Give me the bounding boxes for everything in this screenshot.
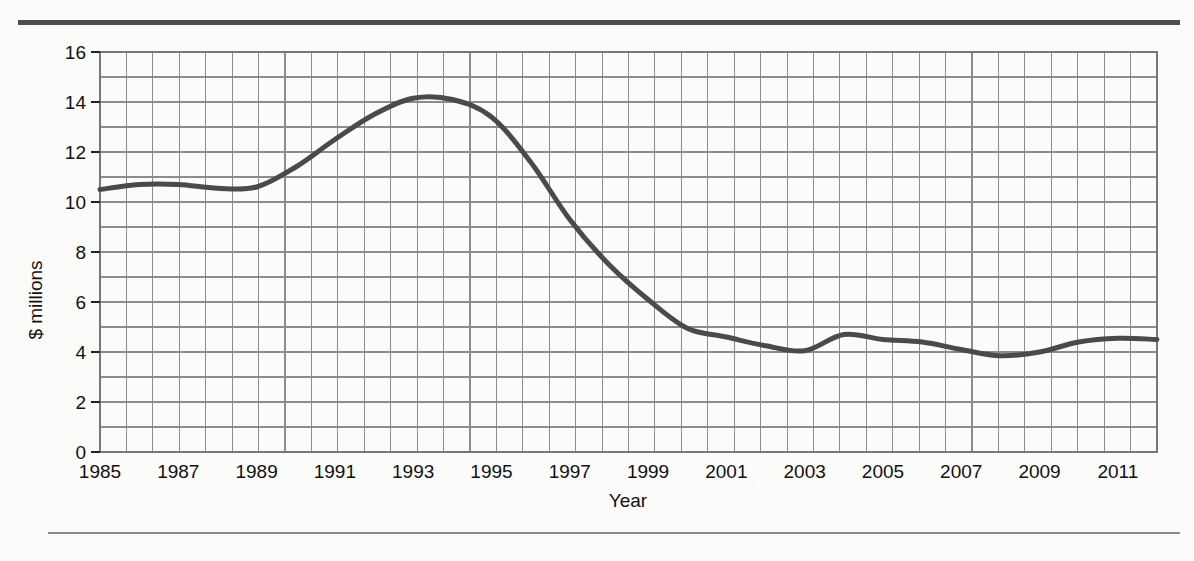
y-tick-label: 14 — [65, 92, 87, 113]
x-tick-label: 2005 — [862, 461, 904, 482]
x-tick-label: 1985 — [79, 461, 121, 482]
x-tick-label: 1989 — [235, 461, 277, 482]
y-tick-label: 6 — [75, 292, 86, 313]
x-tick-label: 2009 — [1018, 461, 1060, 482]
y-tick-label: 0 — [75, 442, 86, 463]
x-tick-label: 2007 — [940, 461, 982, 482]
y-tick-label: 8 — [75, 242, 86, 263]
line-chart: 0246810121416 19851987198919911993199519… — [0, 0, 1194, 561]
chart-canvas: 0246810121416 19851987198919911993199519… — [0, 0, 1194, 561]
x-tick-label: 1997 — [549, 461, 591, 482]
y-axis-label: $ millions — [25, 260, 46, 339]
y-tick-label: 16 — [65, 42, 86, 63]
x-tick-label: 1995 — [470, 461, 512, 482]
x-tick-label: 1987 — [157, 461, 199, 482]
x-tick-label: 1993 — [392, 461, 434, 482]
x-tick-label: 2001 — [705, 461, 747, 482]
y-tick-label: 2 — [75, 392, 86, 413]
x-axis-label: Year — [609, 490, 648, 511]
y-axis-ticks — [91, 52, 100, 452]
y-tick-label: 4 — [75, 342, 86, 363]
x-axis-tick-labels: 1985198719891991199319951997199920012003… — [79, 461, 1138, 482]
x-tick-label: 1991 — [314, 461, 356, 482]
y-tick-label: 10 — [65, 192, 86, 213]
y-tick-label: 12 — [65, 142, 86, 163]
x-tick-label: 2011 — [1097, 461, 1138, 482]
x-tick-label: 1999 — [627, 461, 669, 482]
y-axis-tick-labels: 0246810121416 — [65, 42, 87, 463]
x-tick-label: 2003 — [784, 461, 826, 482]
